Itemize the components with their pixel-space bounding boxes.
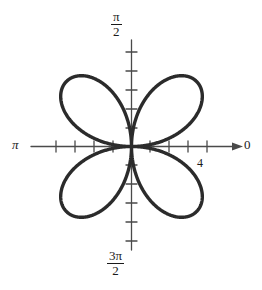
pi-over-two-numerator: π (111, 10, 122, 24)
axis-label-three-pi-over-two: 3π 2 (107, 249, 124, 278)
axis-label-pi: π (12, 138, 19, 151)
axis-label-pi-over-two: π 2 (111, 10, 122, 39)
three-pi-over-two-denominator: 2 (107, 263, 124, 278)
polar-rose-figure (0, 0, 262, 290)
three-pi-over-two-numerator: 3π (107, 249, 124, 263)
axis-label-zero: 0 (244, 138, 251, 151)
radial-tick-label-four: 4 (197, 157, 203, 169)
pi-over-two-denominator: 2 (111, 24, 122, 39)
